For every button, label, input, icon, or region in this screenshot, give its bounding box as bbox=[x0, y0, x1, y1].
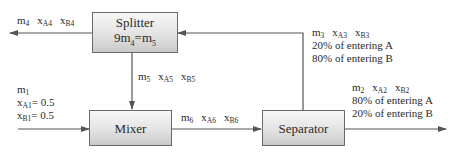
mixer-label: Mixer bbox=[115, 121, 147, 136]
splitter-unit: Splitter 9m4=m5 bbox=[92, 12, 178, 53]
stream-3-label: m3xA3xB3 20% of entering A 80% of enteri… bbox=[312, 26, 393, 65]
stream-5-label: m5xA5xB5 bbox=[138, 70, 195, 83]
stream-3-note-a: 20% of entering A bbox=[312, 39, 393, 52]
stream-2-note-b: 20% of entering B bbox=[352, 107, 433, 120]
process-flow-diagram: Splitter 9m4=m5 Mixer Separator m4xA4xB4… bbox=[0, 0, 458, 152]
stream-2-note-a: 80% of entering A bbox=[352, 94, 433, 107]
splitter-relation: 9m4=m5 bbox=[114, 30, 156, 51]
stream-1-label: m1 xA1= 0.5 xB1= 0.5 bbox=[17, 83, 54, 122]
stream-2-label: m2xA2xB2 80% of entering A 20% of enteri… bbox=[352, 81, 433, 120]
stream-3-line bbox=[178, 33, 303, 110]
separator-label: Separator bbox=[279, 121, 329, 136]
stream-4-label: m4xA4xB4 bbox=[17, 14, 74, 27]
stream-3-note-b: 80% of entering B bbox=[312, 52, 393, 65]
mixer-unit: Mixer bbox=[89, 110, 172, 146]
splitter-label: Splitter bbox=[116, 15, 154, 30]
separator-unit: Separator bbox=[262, 110, 345, 146]
stream-6-label: m6xA6xB6 bbox=[181, 111, 238, 124]
